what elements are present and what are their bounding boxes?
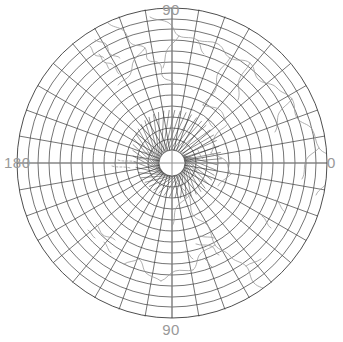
longitude-label-left: 180 <box>4 155 31 170</box>
longitude-label-right: 0 <box>327 155 336 170</box>
polar-map-figure: 90 180 0 90 <box>0 0 343 342</box>
longitude-label-bottom: 90 <box>162 322 180 337</box>
polar-projection-svg <box>0 0 343 342</box>
longitude-label-top: 90 <box>162 2 180 17</box>
